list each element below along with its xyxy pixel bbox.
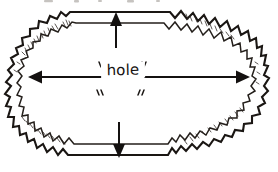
bottom-thickness-arrow <box>113 122 125 158</box>
top-thickness-arrow <box>110 12 122 48</box>
page-artifact-smudges <box>44 0 160 3</box>
hole-width-arrow <box>28 71 250 84</box>
hole-diagram-canvas <box>0 0 278 172</box>
label-quote-marks <box>97 62 146 95</box>
hole-diagram-figure: hole <box>0 0 278 172</box>
inner-rim-outline <box>17 22 256 144</box>
